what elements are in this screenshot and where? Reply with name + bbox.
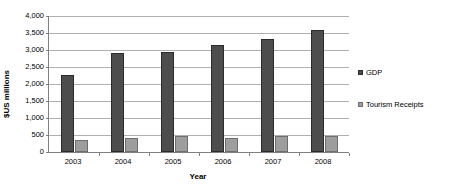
plot-area (48, 16, 349, 153)
x-tick-label: 2003 (48, 157, 98, 166)
y-tick-label: 4,000 (14, 12, 44, 20)
y-tick-label: 2,000 (14, 80, 44, 88)
bar-gdp-2006 (211, 45, 224, 152)
legend-swatch-icon (358, 102, 363, 107)
legend-swatch-icon (358, 70, 363, 75)
x-tick-label: 2008 (298, 157, 348, 166)
y-tick-mark (46, 152, 49, 153)
legend-label: Tourism Receipts (366, 100, 424, 109)
bar-group (49, 16, 99, 152)
x-tick-mark (349, 153, 350, 156)
x-tick-mark (149, 153, 150, 156)
x-tick-label: 2006 (198, 157, 248, 166)
bar-group (149, 16, 199, 152)
bar-chart: $US millions 05001,0001,5002,0002,5003,0… (0, 0, 449, 193)
y-tick-label: 3,500 (14, 29, 44, 37)
bar-gdp-2008 (311, 30, 324, 152)
legend-item-tourism-receipts[interactable]: Tourism Receipts (358, 100, 424, 109)
bar-tourism-2007 (275, 136, 288, 152)
y-axis-tick-labels: 05001,0001,5002,0002,5003,0003,5004,000 (14, 16, 44, 152)
bar-tourism-2004 (125, 138, 138, 152)
y-tick-label: 1,000 (14, 114, 44, 122)
bar-tourism-2003 (75, 140, 88, 152)
bar-gdp-2003 (61, 75, 74, 152)
bar-group (249, 16, 299, 152)
bar-tourism-2006 (225, 138, 238, 152)
x-tick-label: 2005 (148, 157, 198, 166)
bar-group (299, 16, 349, 152)
y-tick-label: 1,500 (14, 97, 44, 105)
y-tick-label: 3,000 (14, 46, 44, 54)
bar-gdp-2007 (261, 39, 274, 152)
y-axis-title: $US millions (2, 49, 14, 139)
x-tick-mark (299, 153, 300, 156)
bar-tourism-2008 (325, 136, 338, 152)
bar-group (99, 16, 149, 152)
x-axis-title: Year (48, 172, 348, 181)
legend-item-gdp[interactable]: GDP (358, 68, 382, 77)
legend-label: GDP (366, 68, 382, 77)
y-tick-label: 0 (14, 148, 44, 156)
y-tick-label: 500 (14, 131, 44, 139)
bar-gdp-2004 (111, 53, 124, 152)
x-tick-mark (99, 153, 100, 156)
bar-group (199, 16, 249, 152)
x-tick-label: 2004 (98, 157, 148, 166)
bar-tourism-2005 (175, 136, 188, 152)
bar-gdp-2005 (161, 52, 174, 152)
x-tick-mark (199, 153, 200, 156)
x-tick-label: 2007 (248, 157, 298, 166)
x-axis-tick-labels: 200320042005200620072008 (48, 157, 348, 167)
x-tick-mark (249, 153, 250, 156)
y-tick-label: 2,500 (14, 63, 44, 71)
